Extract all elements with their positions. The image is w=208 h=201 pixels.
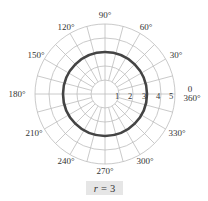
caption-value: 3 <box>110 183 115 194</box>
angle-label-180: 180° <box>8 89 26 99</box>
equation-caption: r = 3 <box>86 181 123 195</box>
radial-tick-3: 3 <box>142 91 146 101</box>
angle-label-120: 120° <box>57 22 75 32</box>
angle-label-150: 150° <box>27 50 45 60</box>
polar-grid <box>35 24 175 164</box>
caption-variable: r <box>94 183 98 194</box>
angle-label-270: 270° <box>96 166 114 176</box>
angle-label-240: 240° <box>57 156 75 166</box>
angle-label-300: 300° <box>136 156 154 166</box>
angle-label-30: 30° <box>170 50 183 60</box>
angle-label-210: 210° <box>25 128 43 138</box>
polar-chart: 90° 60° 30° 0 360° 120° 150° 180° 210° 2… <box>0 0 208 201</box>
radial-tick-5: 5 <box>169 91 173 101</box>
radial-tick-2: 2 <box>128 91 132 101</box>
angle-label-360: 360° <box>183 93 201 103</box>
caption-operator: = <box>101 183 107 194</box>
radial-tick-4: 4 <box>156 91 161 101</box>
angle-label-90: 90° <box>99 10 112 20</box>
radial-tick-1: 1 <box>115 91 119 101</box>
angle-label-330: 330° <box>168 128 186 138</box>
angle-label-60: 60° <box>140 22 153 32</box>
